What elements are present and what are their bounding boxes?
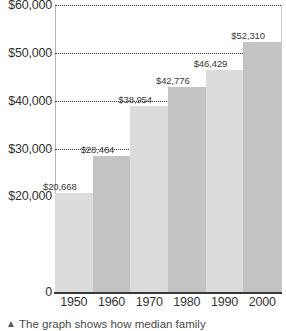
y-axis: $60,000$50,000$40,000$30,000$20,0000	[0, 0, 52, 297]
y-tick-label: $50,000	[0, 46, 52, 60]
bar	[168, 87, 206, 292]
bar-value-label: $38,954	[118, 94, 152, 105]
y-tick-label: $40,000	[0, 94, 52, 108]
x-axis: 195019601970198019902000	[55, 295, 281, 313]
bar	[55, 193, 93, 292]
bar	[243, 42, 281, 292]
y-tick-label: 0	[0, 285, 52, 299]
caption-text: The graph shows how median family	[19, 318, 206, 331]
bar-value-label: $42,776	[156, 75, 190, 86]
bar-value-label: $20,668	[43, 181, 77, 192]
plot-right-border	[281, 5, 282, 292]
bar-value-label: $28,464	[81, 144, 115, 155]
x-tick-label: 1990	[206, 295, 244, 309]
plot-area: $20,668$28,464$38,954$42,776$46,429$52,3…	[55, 5, 281, 292]
x-tick-label: 1970	[130, 295, 168, 309]
x-tick-label: 1960	[93, 295, 131, 309]
bar	[130, 106, 168, 292]
x-tick-label: 2000	[243, 295, 281, 309]
triangle-up-icon	[8, 321, 14, 327]
y-tick-label: $30,000	[0, 142, 52, 156]
caption: The graph shows how median family	[8, 318, 286, 331]
bar-value-label: $46,429	[194, 58, 228, 69]
median-family-income-bar-chart: $60,000$50,000$40,000$30,000$20,0000 $20…	[0, 0, 286, 331]
bar	[93, 156, 131, 292]
y-tick-label: $60,000	[0, 0, 52, 12]
bar	[206, 70, 244, 292]
bar-value-label: $52,310	[231, 30, 265, 41]
x-tick-label: 1950	[55, 295, 93, 309]
x-tick-label: 1980	[168, 295, 206, 309]
x-axis-line	[54, 292, 282, 294]
bars-layer: $20,668$28,464$38,954$42,776$46,429$52,3…	[55, 5, 281, 292]
